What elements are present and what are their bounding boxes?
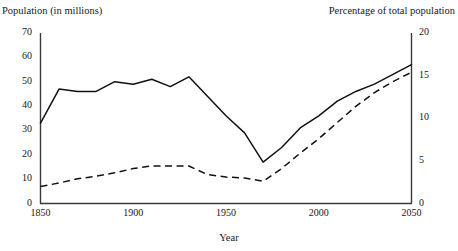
x-tick-1850: 1850 — [21, 207, 61, 218]
y-right-tick-5: 5 — [419, 154, 441, 165]
y-left-tick-40: 40 — [10, 99, 32, 110]
y-left-tick-30: 30 — [10, 123, 32, 134]
y-right-tick-20: 20 — [419, 26, 441, 37]
x-tick-2000: 2000 — [299, 207, 339, 218]
x-tick-1900: 1900 — [113, 207, 153, 218]
chart-figure: Population (in millions) Percentage of t… — [0, 0, 458, 251]
x-tick-1950: 1950 — [206, 207, 246, 218]
y-left-tick-10: 10 — [10, 172, 32, 183]
data-lines — [41, 65, 412, 187]
y-right-tick-10: 10 — [419, 111, 441, 122]
series-population-millions — [41, 65, 412, 162]
y-left-tick-50: 50 — [10, 75, 32, 86]
y-left-tick-0: 0 — [10, 197, 32, 208]
x-tick-2050: 2050 — [392, 207, 432, 218]
axis-lines — [40, 33, 412, 204]
y-left-tick-70: 70 — [10, 26, 32, 37]
y-left-tick-60: 60 — [10, 50, 32, 61]
y-left-tick-20: 20 — [10, 148, 32, 159]
y-right-tick-15: 15 — [419, 69, 441, 80]
series-percentage — [41, 72, 412, 186]
y-right-tick-0: 0 — [419, 197, 441, 208]
